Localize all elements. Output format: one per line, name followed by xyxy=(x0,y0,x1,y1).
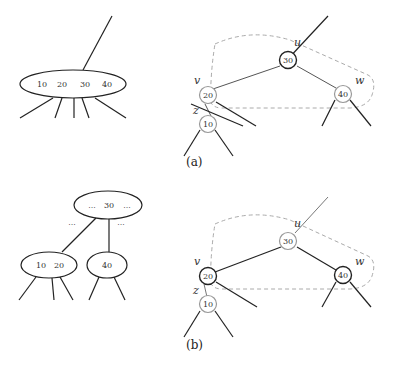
svg-text:...: ... xyxy=(117,218,125,227)
svg-text:10: 10 xyxy=(203,300,213,309)
panel-b-btree: ... 30 ... ... ... 10 20 40 xyxy=(19,191,142,300)
btree-key: 20 xyxy=(57,80,67,89)
diagram-root: 10 20 30 40 30 u 20 v 40 w 10 z (a) xyxy=(0,0,393,371)
node-label-z: z xyxy=(192,284,199,297)
svg-text:30: 30 xyxy=(104,201,114,210)
svg-text:40: 40 xyxy=(338,90,348,99)
node-label-v: v xyxy=(194,74,201,87)
svg-text:30: 30 xyxy=(283,237,293,246)
btree-key: 10 xyxy=(37,80,47,89)
node-label-z: z xyxy=(192,104,199,117)
node-label-w: w xyxy=(355,255,365,268)
svg-text:30: 30 xyxy=(283,56,293,65)
node-label-u: u xyxy=(294,36,301,49)
btree-key: 40 xyxy=(102,80,112,89)
caption-b: (b) xyxy=(186,338,203,352)
node-label-u: u xyxy=(294,217,301,230)
svg-text:10: 10 xyxy=(36,261,46,270)
panel-a-rbtree: 30 u 20 v 40 w 10 z (a) xyxy=(184,16,374,169)
btree-key: 30 xyxy=(80,80,90,89)
svg-text:...: ... xyxy=(68,218,76,227)
svg-text:40: 40 xyxy=(338,271,348,280)
panel-a-btree: 10 20 30 40 xyxy=(20,16,126,118)
diagram-canvas: 10 20 30 40 30 u 20 v 40 w 10 z (a) xyxy=(0,0,393,371)
svg-text:20: 20 xyxy=(203,272,213,281)
caption-a: (a) xyxy=(186,155,203,169)
btree-left-child xyxy=(21,252,77,278)
svg-text:40: 40 xyxy=(102,261,112,270)
svg-text:20: 20 xyxy=(54,261,64,270)
svg-text:20: 20 xyxy=(203,91,213,100)
svg-text:10: 10 xyxy=(203,120,213,129)
node-label-v: v xyxy=(194,255,201,268)
panel-b-rbtree: 30 u 20 v 40 w 10 z (b) xyxy=(184,197,374,352)
node-label-w: w xyxy=(355,74,365,87)
svg-text:...: ... xyxy=(88,201,96,210)
svg-text:...: ... xyxy=(123,201,131,210)
